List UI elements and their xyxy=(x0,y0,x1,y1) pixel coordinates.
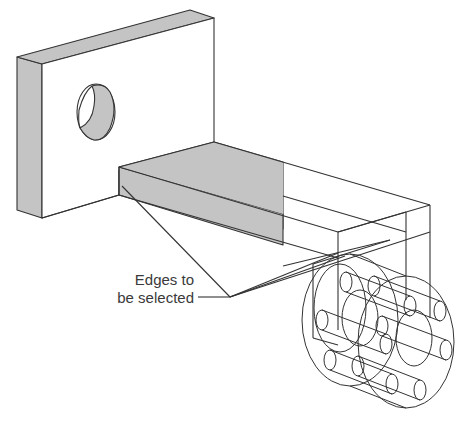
annotation-label-line1: Edges to xyxy=(74,271,194,289)
cad-diagram xyxy=(0,0,476,424)
plate-side-face xyxy=(17,57,42,218)
annotation-label-line2: be selected xyxy=(74,289,194,307)
plate-hole xyxy=(77,84,115,140)
cylinder-assembly xyxy=(302,254,454,408)
